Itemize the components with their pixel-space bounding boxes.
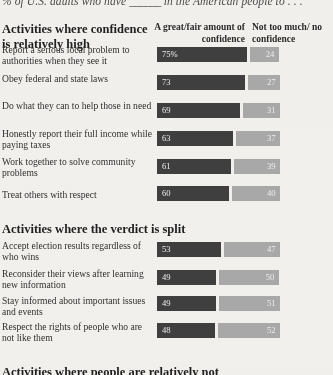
bar-value-confidence: 73: [162, 77, 171, 88]
bar-value-confidence: 69: [162, 105, 171, 116]
row-label: Stay informed about important issues and…: [2, 295, 154, 317]
subtitle-pre: % of U.S. adults who have: [2, 0, 129, 7]
bar-segment-confidence: 49: [157, 270, 216, 285]
bar-value-no-confidence: 31: [267, 105, 276, 116]
column-header-no-confidence: Not too much/ no confidence: [252, 22, 332, 45]
bar-value-no-confidence: 37: [267, 133, 276, 144]
row-label: Respect the rights of people who are not…: [2, 321, 154, 343]
bar-segment-confidence: 53: [157, 242, 221, 257]
row-label: Honestly report their full income while …: [2, 128, 154, 150]
bar-segment-confidence: 60: [157, 186, 229, 201]
bar-segment-confidence: 49: [157, 296, 216, 311]
bar-segment-no-confidence: 52: [218, 323, 281, 338]
bar-value-no-confidence: 52: [267, 325, 276, 336]
subtitle-post: in the American people to . . .: [161, 0, 303, 7]
bar-value-confidence: 48: [162, 325, 171, 336]
row-label: Obey federal and state laws: [2, 73, 154, 84]
bar-segment-confidence: 73: [157, 75, 245, 90]
bar-value-no-confidence: 39: [267, 161, 276, 172]
bar-value-no-confidence: 27: [267, 77, 276, 88]
section-title-split: Activities where the verdict is split: [2, 222, 202, 237]
bar-value-confidence: 61: [162, 161, 171, 172]
bar-segment-no-confidence: 39: [234, 159, 281, 174]
bar-segment-no-confidence: 50: [219, 270, 279, 285]
bar-value-no-confidence: 40: [267, 188, 276, 199]
bar-segment-no-confidence: 27: [248, 75, 281, 90]
row-label: Do what they can to help those in need: [2, 100, 154, 111]
column-header-confidence: A great/fair amount of confidence: [150, 22, 245, 45]
bar-segment-confidence: 61: [157, 159, 231, 174]
row-label: Report a serious local problem to author…: [2, 44, 154, 66]
bar-value-confidence: 60: [162, 188, 171, 199]
bar-segment-confidence: 69: [157, 103, 240, 118]
bar-segment-no-confidence: 47: [224, 242, 281, 257]
row-label: Work together to solve community problem…: [2, 156, 154, 178]
bar-value-no-confidence: 24: [266, 49, 275, 60]
bar-value-confidence: 49: [162, 272, 171, 283]
bar-segment-no-confidence: 24: [250, 47, 279, 62]
chart-figure: % of U.S. adults who have ______ in the …: [0, 0, 333, 375]
row-label: Accept election results regardless of wh…: [2, 240, 154, 262]
bar-segment-no-confidence: 51: [219, 296, 280, 311]
figure-subtitle: % of U.S. adults who have ______ in the …: [2, 0, 333, 7]
bar-value-no-confidence: 51: [267, 298, 276, 309]
section-title-low: Activities where people are relatively n…: [2, 365, 262, 375]
subtitle-blank: ______: [129, 0, 161, 7]
bar-value-confidence: 49: [162, 298, 171, 309]
bar-value-confidence: 75%: [162, 49, 178, 60]
row-label: Reconsider their views after learning ne…: [2, 268, 154, 290]
bar-value-confidence: 53: [162, 244, 171, 255]
bar-segment-no-confidence: 31: [243, 103, 280, 118]
row-label: Treat others with respect: [2, 189, 154, 200]
bar-value-no-confidence: 50: [266, 272, 275, 283]
bar-value-confidence: 63: [162, 133, 171, 144]
bar-segment-no-confidence: 37: [236, 131, 281, 146]
bar-value-no-confidence: 47: [267, 244, 276, 255]
bar-segment-no-confidence: 40: [232, 186, 280, 201]
bar-segment-confidence: 48: [157, 323, 215, 338]
bar-segment-confidence: 75%: [157, 47, 247, 62]
bar-segment-confidence: 63: [157, 131, 233, 146]
